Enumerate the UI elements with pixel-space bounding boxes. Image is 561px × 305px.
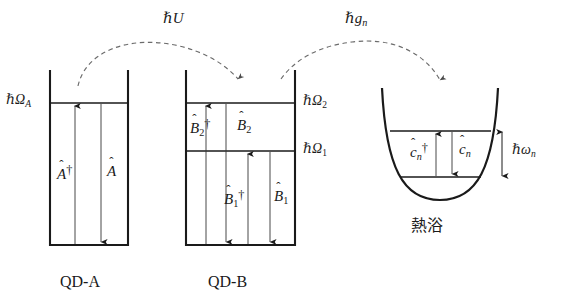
operator-label-cn: ˆcn	[459, 142, 471, 159]
dagger-glyph: †	[204, 117, 210, 131]
hbar-glyph: ℏ	[6, 92, 15, 107]
hatted-symbol: ˆB	[274, 189, 283, 204]
sub-2: 2	[322, 100, 327, 110]
hatted-symbol: ˆc	[459, 142, 466, 157]
operator-label-A: ˆA	[107, 164, 116, 179]
omega-glyph: Ω	[15, 92, 25, 107]
hat-glyph: ˆ	[226, 184, 230, 197]
well-qd-b	[185, 70, 296, 246]
level-label-omega-n: ℏωn	[512, 143, 536, 159]
hatted-symbol: ˆB	[224, 192, 233, 207]
hbar-glyph: ℏ	[512, 142, 521, 157]
sub-A: A	[25, 99, 31, 109]
operator-label-cn-dagger: ˆcn†	[410, 142, 428, 162]
well-thermal-bath	[382, 88, 502, 200]
level-label-omega-A: ℏΩA	[6, 93, 31, 109]
sub-1: 1	[322, 148, 327, 158]
hbar-glyph: ℏ	[163, 10, 173, 26]
omega-glyph: Ω	[312, 93, 322, 108]
arc-hgn	[281, 41, 440, 80]
omega-glyph: Ω	[312, 141, 322, 156]
parabola-curve	[382, 88, 498, 200]
arc-hU	[78, 42, 238, 86]
sub-2: 2	[246, 124, 251, 135]
caption-thermal-bath: 熱浴	[411, 212, 443, 236]
level-label-omega-2: ℏΩ2	[303, 94, 327, 110]
coupling-arcs	[78, 41, 440, 86]
operator-label-B1: ˆB1	[274, 189, 288, 206]
operator-label-B2-dagger: ˆB2†	[190, 118, 210, 138]
hat-glyph: ˆ	[109, 156, 113, 169]
hatted-symbol: ˆB	[190, 121, 199, 136]
coupling-label-hU: ℏU	[163, 11, 184, 26]
dagger-glyph: †	[422, 141, 428, 155]
hat-glyph: ˆ	[239, 110, 243, 123]
sub-n: n	[531, 149, 536, 159]
operator-label-B1-dagger: ˆB1†	[224, 189, 244, 209]
hbar-glyph: ℏ	[345, 10, 355, 26]
hbar-glyph: ℏ	[303, 141, 312, 156]
hat-glyph: ˆ	[59, 159, 63, 172]
caption-qd-b: QD-B	[208, 273, 247, 291]
hatted-symbol: ˆA	[107, 164, 116, 179]
figure-canvas: ℏU ℏgn ℏΩA ℏΩ2 ℏΩ1 ℏωn ˆA† ˆA ˆB2† ˆB2 ˆ…	[0, 0, 561, 305]
hat-glyph: ˆ	[192, 113, 196, 126]
sub-1: 1	[283, 195, 288, 206]
dagger-glyph: †	[238, 188, 244, 202]
sub-n: n	[466, 148, 471, 159]
operator-label-A-dagger: ˆA†	[57, 164, 72, 182]
hat-glyph: ˆ	[411, 137, 415, 150]
hatted-symbol: ˆA	[57, 167, 66, 182]
sym-U: U	[173, 10, 184, 26]
hatted-symbol: ˆc	[410, 145, 417, 160]
hbar-glyph: ℏ	[303, 93, 312, 108]
operator-label-B2: ˆB2	[237, 118, 251, 135]
omega-glyph: ω	[521, 142, 531, 157]
diagram-vector-layer	[0, 0, 561, 305]
hat-glyph: ˆ	[460, 134, 464, 147]
hat-glyph: ˆ	[276, 181, 280, 194]
coupling-label-hgn: ℏgn	[345, 11, 367, 28]
sub-n: n	[362, 17, 367, 28]
hatted-symbol: ˆB	[237, 118, 246, 133]
level-label-omega-1: ℏΩ1	[303, 142, 327, 158]
caption-qd-a: QD-A	[60, 273, 100, 291]
dagger-glyph: †	[66, 163, 72, 177]
